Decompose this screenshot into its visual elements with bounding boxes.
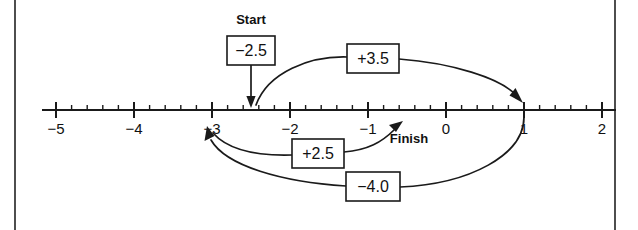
step3-callout-value: +2.5 [302,145,334,162]
step1-callout-value: +3.5 [357,50,389,67]
number-line-figure: −5 −4 −3 −2 −1 0 1 2 [0,0,638,230]
finish-annotation-label: Finish [390,131,428,146]
step3-callout: +2.5 [292,139,344,168]
step1-arc-right [399,59,516,95]
step2-callout: −4.0 [346,172,400,201]
start-pointer-group [246,65,255,108]
step2-callout-value: −4.0 [357,178,389,195]
step1-callout: +3.5 [347,44,399,73]
tick-label-neg2: −2 [281,120,298,137]
tick-label-neg5: −5 [47,120,64,137]
number-line-svg: −5 −4 −3 −2 −1 0 1 2 [0,0,638,230]
start-pointer-arrowhead [246,96,255,108]
step3-arc-left [213,133,292,155]
tick-label-zero: 0 [442,120,450,137]
start-callout-value: −2.5 [235,42,267,59]
tick-label-neg4: −4 [125,120,142,137]
step2-arc-right [400,117,524,187]
step3-arrowhead [389,121,403,132]
start-callout: −2.5 [227,36,275,65]
tick-label-neg1: −1 [359,120,376,137]
axis-group: −5 −4 −3 −2 −1 0 1 2 [42,102,616,137]
start-annotation-label: Start [236,12,266,27]
tick-label-pos2: 2 [598,120,606,137]
